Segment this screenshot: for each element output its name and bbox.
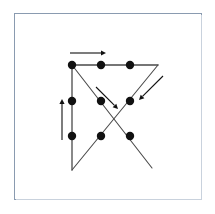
dot-r1c1 <box>68 61 76 69</box>
arrow-left-up-head <box>59 99 64 104</box>
dot-r2c1 <box>68 97 76 105</box>
dot-r3c2 <box>97 132 105 140</box>
arrow-diagonal-down-left <box>139 76 163 100</box>
dot-r1c2 <box>97 61 105 69</box>
arrow-top-right-head <box>101 50 106 55</box>
stroke-group <box>72 65 158 170</box>
arrow-left-up <box>59 99 64 140</box>
arrow-diagonal-down-left-shaft <box>143 76 163 96</box>
dot-r2c3 <box>126 97 134 105</box>
dot-r3c3 <box>126 132 134 140</box>
dot-r1c3 <box>126 61 134 69</box>
figure-root <box>0 0 215 214</box>
arrow-top-right <box>70 50 106 55</box>
dot-r3c1 <box>68 132 76 140</box>
dot-r2c2 <box>97 97 105 105</box>
figure-canvas <box>0 0 215 214</box>
stroke-diagonal-down-right <box>72 65 152 168</box>
